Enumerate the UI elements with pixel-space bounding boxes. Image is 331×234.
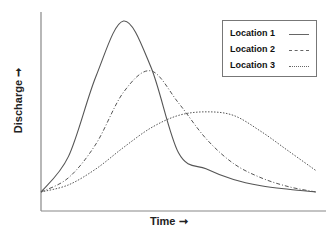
series-line-2 [41, 71, 316, 192]
legend: Location 1 Location 2 Location 3 [222, 20, 317, 77]
legend-label-location-3: Location 3 [230, 60, 275, 70]
legend-swatch-solid [289, 34, 309, 35]
legend-swatch-dash-dot [289, 50, 309, 51]
legend-label-location-2: Location 2 [230, 44, 275, 54]
legend-swatch-dotted [289, 66, 309, 67]
legend-label-location-1: Location 1 [230, 28, 275, 38]
x-axis-label: Time ➞ [150, 215, 188, 228]
y-axis-label: Discharge ➞ [12, 51, 25, 151]
